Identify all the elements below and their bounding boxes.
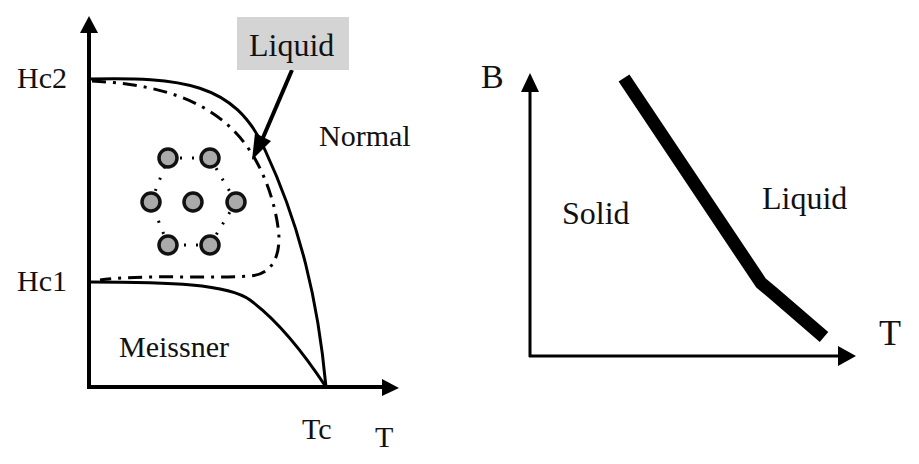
meissner-region-label: Meissner (119, 332, 229, 362)
t-axis-label-right: T (879, 315, 901, 351)
hc1-tick-label: Hc1 (17, 266, 67, 296)
vortex-icon (159, 236, 177, 254)
diagram-canvas (0, 0, 919, 464)
liquid-region-label: Liquid (762, 182, 847, 214)
tc-tick-label: Tc (302, 414, 332, 444)
b-axis-label: B (481, 60, 504, 94)
vortex-icon (201, 149, 219, 167)
b-axis-arrow-icon (521, 73, 539, 92)
vortex-icon (142, 193, 160, 211)
liquid-callout-line (262, 70, 292, 140)
t-axis-arrow-icon (382, 379, 399, 396)
vortex-lattice (142, 149, 245, 254)
melting-line (92, 81, 279, 280)
h-axis-arrow-icon (80, 16, 98, 33)
vortex-icon (159, 149, 177, 167)
vortex-icon (227, 193, 245, 211)
t-axis-label-left: T (375, 422, 393, 452)
liquid-callout-label: Liquid (249, 29, 334, 61)
t-axis-right-arrow-icon (838, 346, 856, 366)
vortex-icon (201, 236, 219, 254)
solid-region-label: Solid (562, 197, 630, 229)
vortex-icon (184, 193, 202, 211)
normal-region-label: Normal (319, 121, 411, 151)
hc2-tick-label: Hc2 (17, 63, 67, 93)
